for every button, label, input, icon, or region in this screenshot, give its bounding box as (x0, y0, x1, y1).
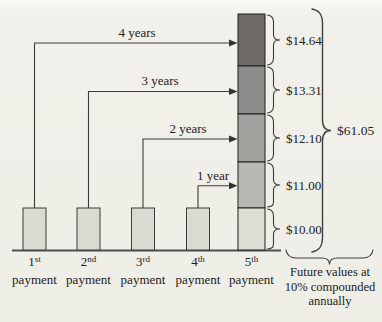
value-12-10: $12.10 (286, 131, 322, 146)
payment-box-1 (23, 208, 46, 250)
brace-13-31 (268, 67, 281, 113)
payment-label-5-ordinal: 5th (245, 254, 259, 269)
value-10-00: $10.00 (286, 222, 322, 237)
payment-label-3-word: payment (121, 272, 166, 287)
arrowhead-3-years-icon (229, 88, 238, 95)
brace-14-64 (268, 15, 281, 65)
brace-12-10 (268, 115, 281, 161)
arrow-label-3-years: 3 years (141, 73, 178, 88)
connector-3-years (89, 92, 230, 209)
value-13-31: $13.31 (286, 83, 322, 98)
future-value-bar (238, 14, 265, 250)
payment-label-2-word: payment (66, 272, 111, 287)
arrow-label-1-year: 1 year (197, 168, 230, 183)
value-11-00: $11.00 (286, 178, 321, 193)
arrow-label-4-years: 4 years (118, 25, 155, 40)
bar-segment-12-10 (238, 114, 265, 162)
arrowhead-4-years-icon (229, 40, 238, 47)
payment-label-2-ordinal: 2nd (81, 254, 97, 269)
payment-label-1-word: payment (12, 272, 57, 287)
note-line-2: 10% compounded (285, 280, 376, 294)
payment-label-5-word: payment (229, 272, 274, 287)
annuity-diagram: 4 years 3 years 2 years 1 year $14.64 $1… (0, 0, 382, 322)
payment-box-4 (187, 208, 210, 250)
payment-label-4-word: payment (176, 272, 221, 287)
payment-label-4-ordinal: 4th (191, 254, 205, 269)
bar-segment-10-00 (238, 208, 265, 250)
bar-segment-13-31 (238, 66, 265, 114)
brace-10-00 (268, 209, 281, 249)
total-value: $61.05 (337, 123, 374, 138)
annuity-figure: 4 years 3 years 2 years 1 year $14.64 $1… (0, 0, 382, 322)
brace-11-00 (268, 163, 281, 207)
value-14-64: $14.64 (286, 33, 322, 48)
payment-label-1-ordinal: 1st (28, 254, 41, 269)
brace-note (286, 250, 373, 265)
note-line-1: Future values at (290, 265, 370, 279)
payment-box-3 (132, 208, 155, 250)
payment-box-2 (77, 208, 100, 250)
arrowhead-2-years-icon (229, 136, 238, 143)
arrow-label-2-years: 2 years (169, 121, 206, 136)
note-line-3: annually (308, 294, 352, 308)
bar-segment-14-64 (238, 14, 265, 66)
arrowhead-1-year-icon (229, 182, 238, 189)
connector-1-year (198, 186, 230, 208)
bar-segment-11-00 (238, 162, 265, 208)
payment-label-3-ordinal: 3rd (136, 254, 150, 269)
